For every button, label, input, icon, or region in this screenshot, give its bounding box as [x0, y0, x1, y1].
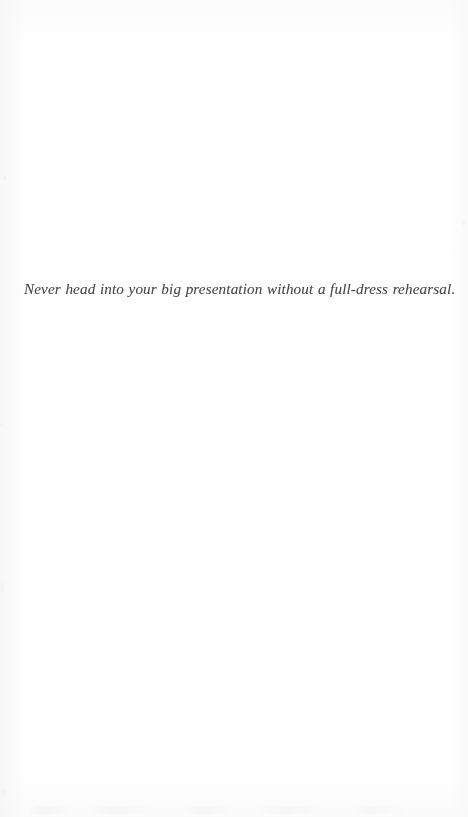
scan-speck	[1, 423, 3, 426]
scan-speck	[1, 583, 4, 592]
scan-speck	[3, 176, 6, 180]
epigraph-text: Never head into your big presentation wi…	[24, 279, 455, 299]
scan-speck	[2, 789, 5, 795]
scan-speck	[463, 221, 465, 226]
epigraph-block: Never head into your big presentation wi…	[0, 279, 468, 299]
page-bleed-through-artifact	[28, 806, 408, 814]
scanned-page: Never head into your big presentation wi…	[0, 0, 468, 817]
scan-shading-overlay	[0, 0, 468, 817]
